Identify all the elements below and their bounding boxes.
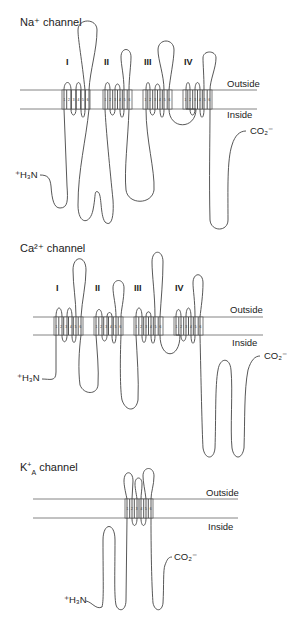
ca-domain-IV-segments: 123456 [174,317,203,335]
ca-inside-label: Inside [232,337,257,348]
na-n-terminus-label: ⁺H₃N [15,169,38,180]
ca-domain-III-segments: 123456 [134,317,163,335]
ca-domain-II-segments: 123456 [94,317,123,335]
svg-text:4: 4 [77,98,79,102]
ca-channel-panel: Ca²⁺ channel Outside Inside I II III IV … [17,242,287,457]
na-domain-II-label: II [104,57,109,67]
svg-text:6: 6 [87,98,89,102]
svg-text:2: 2 [68,98,70,102]
na-domain-IV-label: IV [184,57,193,67]
ka-inside-label: Inside [208,521,233,532]
na-domain-IV-segments: 123456 [183,90,212,109]
na-inside-label: Inside [227,109,252,120]
na-channel-panel: Na⁺ channel Outside Inside I II III IV 1… [15,16,273,229]
na-outside-label: Outside [227,78,260,89]
na-domain-III-label: III [144,57,152,67]
na-polypeptide-chain [40,21,246,229]
ca-domain-IV-label: IV [175,283,184,293]
ka-c-terminus-label: CO₂⁻ [174,551,197,562]
na-domain-I-label: I [66,57,69,67]
svg-text:5: 5 [82,98,84,102]
ka-segments: 123456 [125,499,153,518]
svg-text:3: 3 [73,98,75,102]
ka-polypeptide-chain [86,469,172,610]
ca-n-terminus-label: ⁺H₃N [17,372,40,383]
ca-polypeptide-chain [42,252,260,457]
ca-c-terminus-label: CO₂⁻ [264,350,287,361]
ca-outside-label: Outside [230,304,263,315]
ka-outside-label: Outside [206,487,239,498]
ka-channel-panel: K+A channel Outside Inside 123456 ⁺H₃N C… [20,461,239,610]
ca-domain-I-label: I [56,283,59,293]
na-c-terminus-label: CO₂⁻ [250,125,273,136]
ka-channel-title: K+A channel [20,461,78,476]
ion-channel-topology-diagram: Na⁺ channel Outside Inside I II III IV 1… [0,0,298,618]
ca-domain-II-label: II [95,283,100,293]
na-domain-III-segments: 123456 [143,90,172,109]
na-domain-II-segments: 123456 [103,90,132,109]
ca-channel-title: Ca²⁺ channel [20,242,85,254]
ca-domain-III-label: III [134,283,142,293]
na-channel-title: Na⁺ channel [20,16,82,28]
ca-domain-I-segments: 123456 [54,317,83,335]
ka-n-terminus-label: ⁺H₃N [64,594,87,605]
